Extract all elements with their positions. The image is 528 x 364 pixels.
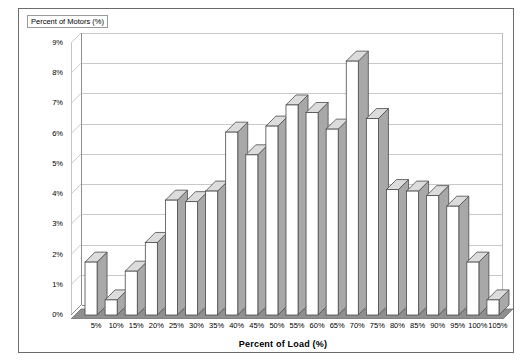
y-axis-title: Percent of Motors (%) (27, 15, 108, 28)
y-axis-tick-label: 2% (29, 251, 63, 259)
x-axis-title: Percent of Load (%) (19, 339, 528, 349)
y-axis-tick-label: 7% (29, 99, 63, 107)
bar (71, 33, 513, 319)
y-axis-tick-label: 4% (29, 190, 63, 198)
y-axis-tick-label: 8% (29, 69, 63, 77)
y-axis-tick-label: 5% (29, 160, 63, 168)
y-axis-tick-label: 1% (29, 281, 63, 289)
y-axis-tick-label: 6% (29, 130, 63, 138)
y-axis-tick-label: 0% (29, 311, 63, 319)
y-axis-tick-label: 9% (29, 39, 63, 47)
y-axis-tick-label: 3% (29, 220, 63, 228)
top-edge-artifact (0, 0, 528, 3)
chart-frame: Percent of Motors (%) 9%8%7%6%5%4%3%2%1%… (18, 8, 514, 353)
bar-front-face (487, 300, 499, 315)
y-axis-tick-labels: 9%8%7%6%5%4%3%2%1%0% (27, 33, 63, 315)
x-axis-tick-label: 105% (484, 321, 512, 330)
bar-series (71, 33, 513, 319)
x-axis-tick-labels: 5%10%15%20%25%30%35%40%45%50%55%60%65%70… (71, 321, 519, 333)
